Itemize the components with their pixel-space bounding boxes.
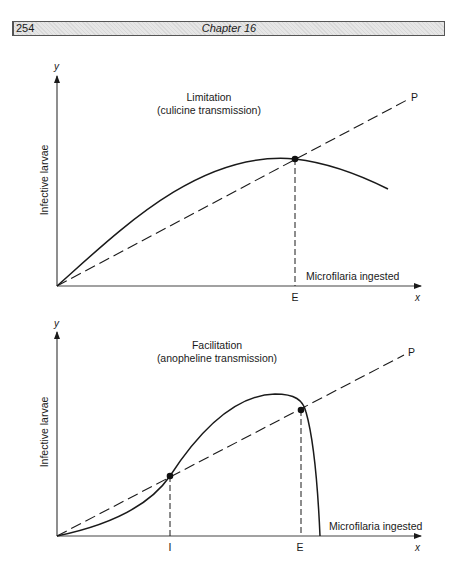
- chart-subtitle: (culicine transmission): [157, 104, 261, 116]
- equilibrium-point-e: [298, 407, 305, 414]
- line-label-p: P: [411, 91, 418, 103]
- y-axis-label: Infective larvae: [38, 145, 50, 216]
- threshold-point-i: [167, 473, 174, 480]
- line-label-p: P: [408, 346, 415, 358]
- chart-title: Facilitation: [192, 339, 242, 351]
- y-axis-label: Infective larvae: [38, 397, 50, 468]
- x-axis-symbol: x: [414, 292, 421, 303]
- yield-curve: [57, 394, 320, 536]
- yield-curve: [57, 158, 388, 286]
- x-axis-symbol: x: [414, 542, 421, 553]
- replacement-line-p: [57, 355, 404, 536]
- chart-title: Limitation: [187, 91, 232, 103]
- facilitation-chart: y x Infective larvae Microfilaria ingest…: [38, 318, 423, 553]
- limitation-chart: y x Infective larvae Microfilaria ingest…: [38, 61, 421, 303]
- tick-label-e: E: [291, 291, 298, 303]
- y-axis-symbol: y: [53, 318, 60, 329]
- chart-subtitle: (anopheline transmission): [157, 352, 277, 364]
- figure: y x Infective larvae Microfilaria ingest…: [0, 0, 455, 569]
- replacement-line-p: [57, 100, 407, 286]
- tick-label-i: I: [169, 541, 172, 553]
- x-axis-label: Microfilaria ingested: [329, 520, 423, 532]
- equilibrium-point-e: [292, 156, 299, 163]
- x-axis-label: Microfilaria ingested: [306, 270, 400, 282]
- tick-label-e: E: [296, 541, 303, 553]
- y-axis-symbol: y: [53, 61, 60, 72]
